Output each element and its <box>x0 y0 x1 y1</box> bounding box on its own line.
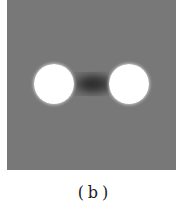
dark-bridge-region <box>71 72 109 96</box>
left-bright-spot <box>34 64 74 104</box>
figure-caption: (b) <box>0 184 190 201</box>
right-bright-spot <box>109 64 149 104</box>
figure-image-panel <box>7 0 176 170</box>
